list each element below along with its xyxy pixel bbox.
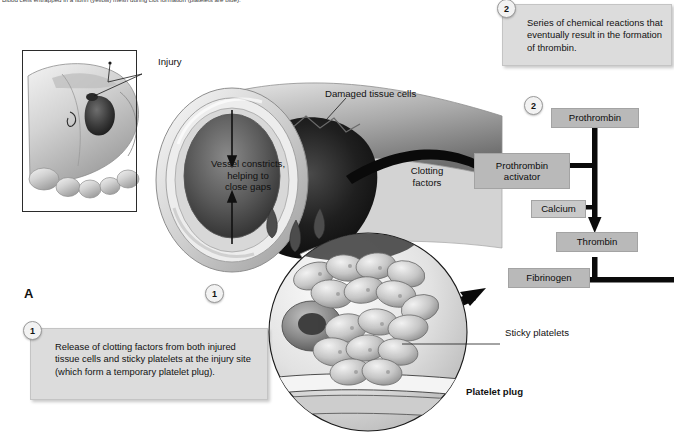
figure-canvas: Blood cells entrapped in a fibrin (yello… [0,0,674,438]
vessel-constricts-line-3: close gaps [200,181,296,193]
flowchart-node-prothrombin[interactable]: Prothrombin [551,108,639,128]
callout-1-text: Release of clotting factors from both in… [55,341,255,378]
platelet-plug-label: Platelet plug [466,386,523,398]
vessel-constricts-label: Vessel constricts, helping to close gaps [200,158,296,193]
prothrombin-activator-line-2: activator [504,171,540,183]
damaged-tissue-cells-label: Damaged tissue cells [325,88,416,100]
vessel-constricts-line-1: Vessel constricts, [200,158,296,170]
callout-box-1: 1 Release of clotting factors from both … [30,328,268,400]
callout-2-number: 2 [497,0,516,18]
clotting-factors-label: Clotting factors [398,165,456,188]
injury-inset-frame [22,50,137,212]
panel-letter-a: A [24,286,33,301]
callout-2-text: Series of chemical reactions that eventu… [527,17,663,54]
vessel-constricts-line-2: helping to [200,170,296,182]
flowchart-node-thrombin[interactable]: Thrombin [556,232,638,252]
flowchart-node-calcium[interactable]: Calcium [531,200,586,218]
prothrombin-activator-line-1: Prothrombin [496,160,548,172]
callout-1-number: 1 [23,321,42,340]
clotting-factors-line-2: factors [398,177,456,189]
callout-box-2: 2 Series of chemical reactions that even… [502,4,672,66]
sticky-platelets-label: Sticky platelets [505,327,569,339]
figure-top-caption: Blood cells entrapped in a fibrin (yello… [2,0,432,5]
step-marker-1: 1 [205,284,224,303]
step-marker-2: 2 [524,96,543,115]
flowchart-node-fibrinogen[interactable]: Fibrinogen [508,268,590,288]
flowchart-node-prothrombin-activator[interactable]: Prothrombin activator [474,153,570,189]
clotting-factors-line-1: Clotting [398,165,456,177]
